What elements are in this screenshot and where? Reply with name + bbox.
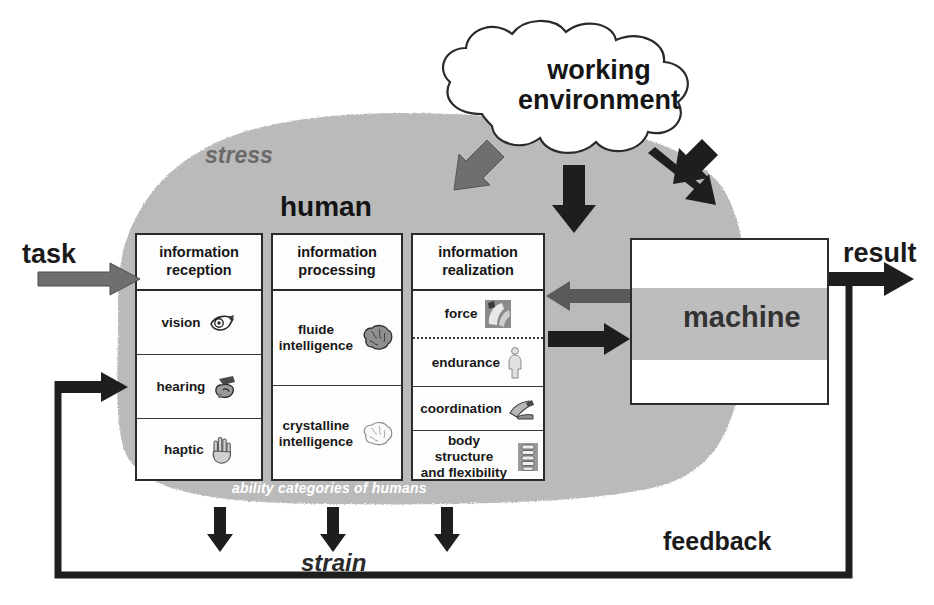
row-label-line2: and flexibility bbox=[421, 465, 507, 480]
row-hearing: hearing bbox=[137, 355, 261, 419]
person-icon bbox=[506, 346, 524, 380]
column-information-processing: information processing fluide intelligen… bbox=[271, 233, 403, 481]
row-label: fluide intelligence bbox=[279, 322, 353, 354]
row-endurance: endurance bbox=[413, 339, 543, 387]
row-label-line1: fluide bbox=[298, 322, 334, 337]
header-line2: processing bbox=[298, 262, 375, 280]
row-label-line1: body structure bbox=[435, 433, 494, 464]
row-force: force bbox=[413, 291, 543, 339]
header-line2: reception bbox=[166, 262, 231, 280]
row-label: hearing bbox=[157, 379, 206, 395]
row-fluide-intelligence: fluide intelligence bbox=[273, 291, 401, 386]
row-label: crystalline intelligence bbox=[279, 418, 353, 450]
row-label-line2: intelligence bbox=[279, 338, 353, 353]
result-label: result bbox=[843, 238, 917, 269]
header-line1: information bbox=[297, 244, 377, 262]
header-line2: realization bbox=[442, 262, 514, 280]
cloud-label: working environment bbox=[487, 55, 711, 115]
row-label: vision bbox=[161, 315, 200, 331]
row-label: haptic bbox=[164, 442, 204, 458]
column-information-reception: information reception vision hearing hap… bbox=[135, 233, 263, 481]
muscle-icon bbox=[484, 299, 512, 329]
diagram-canvas: machine working environment information … bbox=[0, 0, 934, 605]
row-label: endurance bbox=[432, 355, 500, 371]
brain-outline-icon bbox=[359, 420, 395, 448]
row-vision: vision bbox=[137, 291, 261, 355]
row-haptic: haptic bbox=[137, 419, 261, 481]
eye-icon bbox=[207, 310, 237, 336]
strain-label: strain bbox=[301, 549, 366, 577]
machine-label: machine bbox=[683, 301, 801, 334]
row-label: coordination bbox=[420, 401, 502, 417]
column-header: information processing bbox=[273, 235, 401, 291]
hand-tool-icon bbox=[508, 397, 536, 421]
feedback-label: feedback bbox=[663, 527, 771, 556]
row-body-structure: body structure and flexibility bbox=[413, 431, 543, 483]
ability-categories-caption: ability categories of humans bbox=[232, 480, 427, 496]
ear-icon bbox=[211, 373, 241, 401]
row-label: force bbox=[444, 306, 477, 322]
header-line1: information bbox=[159, 244, 239, 262]
column-information-realization: information realization force endurance … bbox=[411, 233, 545, 481]
row-label-line2: intelligence bbox=[279, 434, 353, 449]
brain-icon bbox=[359, 323, 395, 353]
hand-icon bbox=[210, 435, 234, 465]
spine-icon bbox=[517, 442, 539, 472]
column-header: information reception bbox=[137, 235, 261, 291]
column-header: information realization bbox=[413, 235, 543, 291]
cloud-label-line1: working bbox=[487, 55, 711, 85]
human-label: human bbox=[280, 191, 372, 223]
header-line1: information bbox=[438, 244, 518, 262]
task-label: task bbox=[22, 239, 76, 270]
row-coordination: coordination bbox=[413, 387, 543, 431]
stress-label: stress bbox=[205, 142, 273, 169]
row-label: body structure and flexibility bbox=[417, 433, 511, 481]
row-label-line1: crystalline bbox=[283, 418, 350, 433]
cloud-label-line2: environment bbox=[487, 85, 711, 115]
row-crystalline-intelligence: crystalline intelligence bbox=[273, 386, 401, 481]
